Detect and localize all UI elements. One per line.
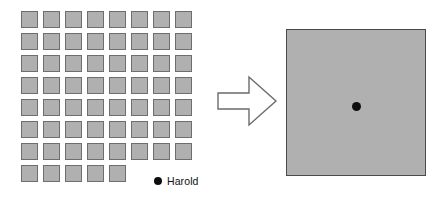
- grid-cell: [175, 33, 192, 50]
- grid-cell: [109, 99, 126, 116]
- grid-cell: [87, 143, 104, 160]
- grid-cell: [65, 77, 82, 94]
- grid-cell: [43, 55, 60, 72]
- grid-cell: [65, 11, 82, 28]
- grid-cell: [65, 165, 82, 182]
- grid-cell: [43, 99, 60, 116]
- grid-cell: [87, 99, 104, 116]
- grid-cell: [21, 11, 38, 28]
- grid-cell: [153, 99, 170, 116]
- grid-cell: [131, 143, 148, 160]
- grid-cell: [175, 11, 192, 28]
- grid-cell: [43, 121, 60, 138]
- grid-cell: [87, 55, 104, 72]
- right-arrow-icon: [218, 77, 276, 125]
- grid-cell: [65, 99, 82, 116]
- individual-cells-grid: [21, 11, 198, 182]
- grid-cell: [175, 99, 192, 116]
- grid-cell: [43, 77, 60, 94]
- harold-legend: Harold: [154, 176, 199, 187]
- grid-cell: [65, 33, 82, 50]
- grid-cell: [87, 77, 104, 94]
- harold-point-icon: [352, 102, 361, 111]
- transformation-arrow: [216, 72, 278, 130]
- grid-cell: [109, 11, 126, 28]
- grid-cell: [131, 77, 148, 94]
- grid-cell: [153, 11, 170, 28]
- grid-cell: [43, 33, 60, 50]
- grid-cell: [87, 121, 104, 138]
- grid-cell: [21, 77, 38, 94]
- grid-cell: [87, 11, 104, 28]
- grid-cell: [175, 121, 192, 138]
- grid-cell: [131, 11, 148, 28]
- grid-cell: [21, 33, 38, 50]
- grid-cell: [109, 121, 126, 138]
- grid-cell: [65, 55, 82, 72]
- grid-cell: [109, 55, 126, 72]
- grid-cell: [21, 143, 38, 160]
- grid-cell: [65, 121, 82, 138]
- grid-cell: [109, 77, 126, 94]
- harold-legend-marker-icon: [154, 177, 162, 185]
- grid-cell: [131, 55, 148, 72]
- grid-cell: [43, 165, 60, 182]
- grid-cell: [175, 77, 192, 94]
- grid-cell: [21, 121, 38, 138]
- grid-cell: [153, 143, 170, 160]
- grid-cell: [21, 99, 38, 116]
- grid-cell: [21, 55, 38, 72]
- grid-cell: [153, 77, 170, 94]
- grid-cell: [131, 121, 148, 138]
- harold-legend-label: Harold: [167, 176, 199, 187]
- individual-cells-panel: Harold: [0, 0, 222, 203]
- grid-cell: [153, 121, 170, 138]
- grid-cell: [21, 165, 38, 182]
- grid-cell: [87, 165, 104, 182]
- grid-cell: [153, 33, 170, 50]
- aggregation-diagram: Harold: [0, 0, 444, 203]
- grid-cell: [175, 143, 192, 160]
- grid-cell: [153, 55, 170, 72]
- grid-cell: [109, 165, 126, 182]
- grid-cell: [65, 143, 82, 160]
- grid-cell: [109, 143, 126, 160]
- grid-cell: [43, 11, 60, 28]
- grid-cell: [131, 99, 148, 116]
- aggregated-area-panel: [286, 29, 426, 176]
- grid-cell: [175, 55, 192, 72]
- grid-cell: [131, 33, 148, 50]
- grid-cell: [87, 33, 104, 50]
- grid-cell: [109, 33, 126, 50]
- grid-cell: [43, 143, 60, 160]
